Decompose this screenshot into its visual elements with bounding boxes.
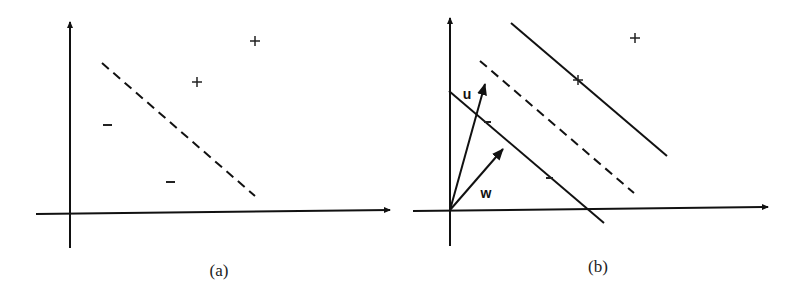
dashed-boundary — [480, 61, 634, 193]
vector-u-label: u — [463, 86, 472, 102]
x-axis — [36, 210, 390, 214]
upper-margin-line — [511, 23, 667, 156]
panel-b: u w (b) — [413, 18, 768, 276]
caption-b: (b) — [588, 257, 608, 276]
vector-w-label: w — [480, 185, 492, 201]
panel-a: (a) — [36, 22, 390, 280]
dashed-boundary — [102, 63, 255, 196]
caption-a: (a) — [210, 261, 229, 280]
figure-canvas: (a) u w (b) — [0, 0, 804, 296]
lower-margin-line — [449, 91, 604, 223]
positive-mark — [630, 33, 640, 43]
positive-mark — [192, 77, 202, 87]
positive-mark — [250, 36, 260, 46]
